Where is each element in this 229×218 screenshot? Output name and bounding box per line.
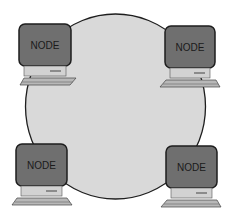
node-label: NODE	[176, 42, 205, 53]
keyboard-icon	[12, 198, 72, 205]
ring-topology-diagram: NODE NODE NODE NODE	[0, 0, 229, 218]
computer-node-bottom-right: NODE	[161, 146, 221, 207]
keyboard-icon	[160, 80, 220, 87]
keyboard-icon	[161, 200, 221, 207]
node-label: NODE	[31, 40, 60, 51]
node-label: NODE	[177, 162, 206, 173]
node-label: NODE	[27, 160, 56, 171]
keyboard-icon	[20, 78, 76, 85]
computer-node-bottom-left: NODE	[12, 144, 72, 205]
